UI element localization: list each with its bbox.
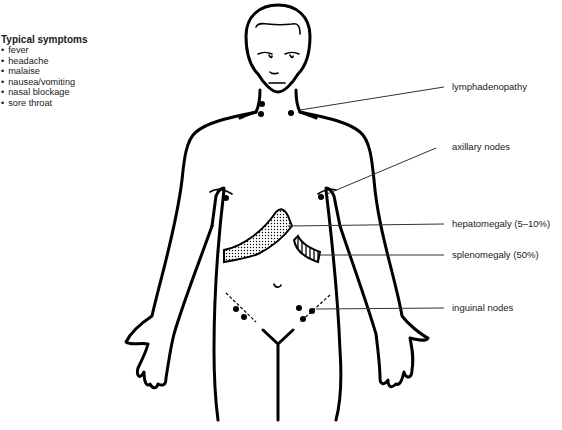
liver-hepatomegaly [224,209,292,262]
lymph-nodes [223,101,324,322]
inguinal-node [233,306,239,312]
inguinal-node [296,305,302,311]
inguinal-node [241,314,247,320]
axillary-node [223,195,229,201]
symptom-item: nausea/vomiting [1,77,88,88]
symptom-item: malaise [1,66,88,77]
head [246,5,310,92]
symptom-item: nasal blockage [1,87,88,98]
symptoms-list: Typical symptoms fever headache malaise … [1,34,88,109]
label-lymphadenopathy: lymphadenopathy [452,81,527,92]
spleen-splenomegaly [294,236,320,262]
symptoms-title: Typical symptoms [1,34,88,45]
inguinal-node [309,308,315,314]
label-inguinal-nodes: inguinal nodes [452,302,513,313]
cervical-node [259,101,265,107]
inguinal-node [300,316,306,322]
label-axillary-nodes: axillary nodes [452,141,510,152]
leader-lines [288,87,444,309]
symptom-item: headache [1,56,88,67]
cervical-node [288,110,294,116]
cervical-node [258,111,264,117]
label-hepatomegaly: hepatomegaly (5–10%) [452,218,550,229]
symptom-item: sore throat [1,98,88,109]
label-splenomegaly: splenomegaly (50%) [452,249,539,260]
axillary-node [318,194,324,200]
symptom-item: fever [1,45,88,56]
